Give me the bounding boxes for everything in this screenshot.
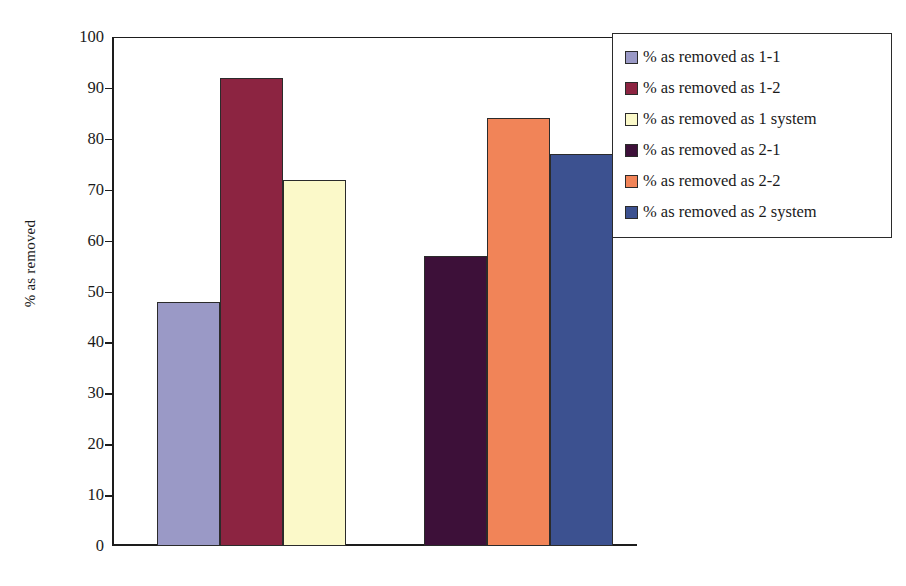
bar (157, 302, 220, 546)
y-tick-label: 60 (58, 232, 104, 249)
legend-item: % as removed as 1-2 (625, 73, 881, 104)
y-tick-mark (105, 444, 112, 446)
legend-swatch-icon (625, 113, 638, 126)
y-tick-label: 80 (58, 131, 104, 148)
bar (424, 256, 487, 546)
legend-item: % as removed as 2-2 (625, 166, 881, 197)
y-tick-mark (105, 292, 112, 294)
y-tick-label: 20 (58, 436, 104, 453)
legend-item: % as removed as 1-1 (625, 42, 881, 73)
y-tick-label: 70 (58, 181, 104, 198)
legend-swatch-icon (625, 175, 638, 188)
bars-layer (112, 37, 637, 546)
y-tick-label: 40 (58, 334, 104, 351)
y-tick-mark (105, 393, 112, 395)
bar (283, 180, 346, 546)
legend-label: % as removed as 2-1 (643, 142, 780, 159)
y-tick-label: 10 (58, 487, 104, 504)
bar-chart: % as removed 1009080706050403020100 % as… (0, 0, 906, 586)
y-tick-mark (105, 342, 112, 344)
y-tick-mark (105, 241, 112, 243)
y-axis-title: % as removed (22, 184, 39, 344)
bar (487, 118, 550, 546)
legend-item: % as removed as 2-1 (625, 135, 881, 166)
legend-label: % as removed as 1-1 (643, 49, 780, 66)
y-tick-label: 30 (58, 385, 104, 402)
legend-swatch-icon (625, 206, 638, 219)
y-tick-mark (105, 495, 112, 497)
bar (550, 154, 613, 546)
legend-label: % as removed as 1 system (643, 111, 817, 128)
legend-item: % as removed as 2 system (625, 197, 881, 228)
y-tick-label: 100 (58, 29, 104, 46)
y-tick-mark (105, 139, 112, 141)
legend-label: % as removed as 2-2 (643, 173, 780, 190)
legend-item: % as removed as 1 system (625, 104, 881, 135)
legend-swatch-icon (625, 82, 638, 95)
bar (220, 78, 283, 546)
legend-swatch-icon (625, 51, 638, 64)
y-tick-mark (105, 190, 112, 192)
y-tick-label: 50 (58, 283, 104, 300)
y-tick-mark (105, 88, 112, 90)
y-tick-label: 90 (58, 80, 104, 97)
y-tick-label: 0 (58, 538, 104, 555)
legend-swatch-icon (625, 144, 638, 157)
legend: % as removed as 1-1% as removed as 1-2% … (612, 33, 892, 238)
legend-label: % as removed as 1-2 (643, 80, 780, 97)
legend-label: % as removed as 2 system (643, 204, 817, 221)
